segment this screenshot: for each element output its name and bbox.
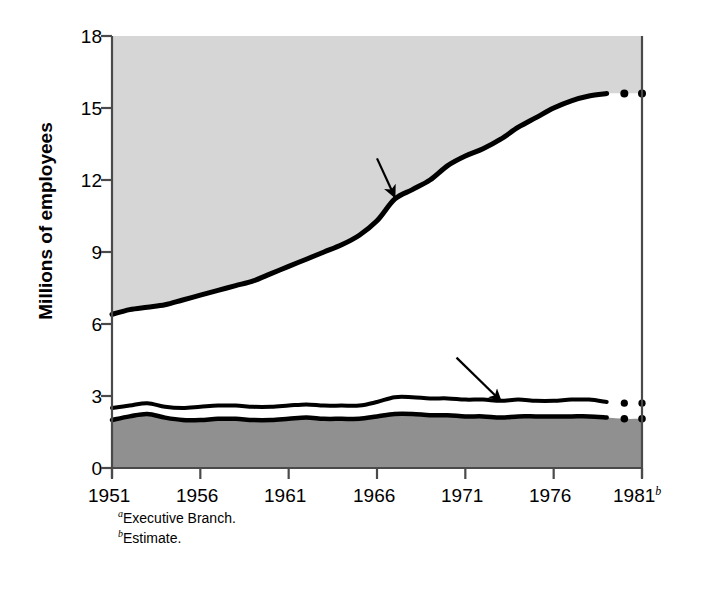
total-estimate-dot <box>620 90 628 98</box>
plot-layers <box>101 36 646 479</box>
postal-service-estimate-dot <box>621 400 628 407</box>
chart-figure: Millions of employees 18 15 12 9 6 3 0 1… <box>0 0 704 591</box>
federal-estimate-dot <box>621 415 629 423</box>
chart-plot-area <box>0 0 704 591</box>
